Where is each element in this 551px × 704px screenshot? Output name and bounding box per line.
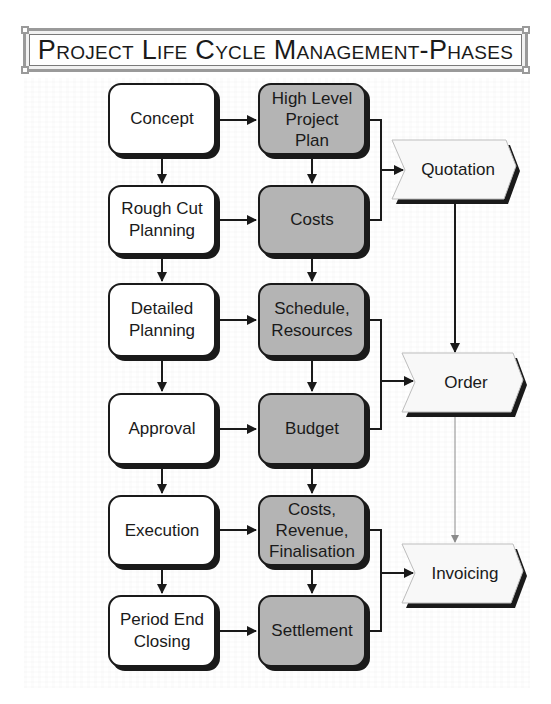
- output-label: Costs: [290, 209, 333, 231]
- phase-period-end-closing: Period End Closing: [108, 595, 216, 667]
- output-settlement: Settlement: [258, 595, 366, 667]
- phase-label: Approval: [128, 418, 195, 440]
- phase-concept: Concept: [108, 83, 216, 155]
- output-label: Budget: [285, 418, 339, 440]
- document-label: Invoicing: [431, 564, 498, 584]
- output-label: High Level Project Plan: [272, 88, 352, 151]
- document-label: Order: [444, 373, 487, 393]
- document-label: Quotation: [421, 160, 495, 180]
- output-budget: Budget: [258, 393, 366, 465]
- output-schedule-resources: Schedule, Resources: [258, 283, 366, 357]
- phase-label: Period End Closing: [120, 609, 204, 653]
- output-costs: Costs: [258, 185, 366, 255]
- output-label: Settlement: [271, 620, 352, 642]
- phase-approval: Approval: [108, 393, 216, 465]
- phase-execution: Execution: [108, 495, 216, 566]
- output-label: Costs, Revenue, Finalisation: [269, 499, 355, 562]
- output-costs-revenue-finalisation: Costs, Revenue, Finalisation: [258, 495, 366, 566]
- document-invoicing: Invoicing: [416, 544, 514, 603]
- phase-label: Concept: [130, 108, 193, 130]
- phase-rough-cut-planning: Rough Cut Planning: [108, 185, 216, 255]
- document-quotation: Quotation: [408, 140, 508, 199]
- phase-detailed-planning: Detailed Planning: [108, 283, 216, 357]
- phase-label: Rough Cut Planning: [121, 198, 202, 242]
- phase-label: Execution: [125, 520, 200, 542]
- output-high-level-project-plan: High Level Project Plan: [258, 83, 366, 155]
- phase-label: Detailed Planning: [129, 298, 195, 342]
- output-label: Schedule, Resources: [271, 298, 352, 342]
- document-order: Order: [418, 353, 514, 412]
